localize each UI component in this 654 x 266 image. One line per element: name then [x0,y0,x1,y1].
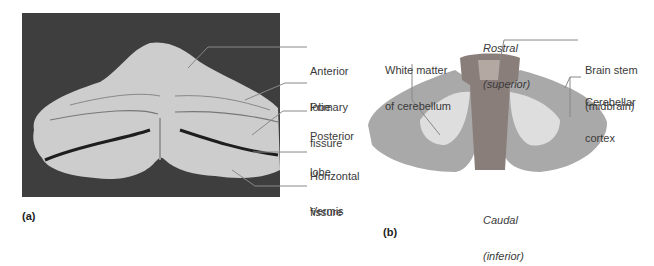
label-vermis: Vermis [310,181,344,241]
panel-b-label: (b) [383,226,397,238]
panel-b: Rostral (superior) White matter of cereb… [360,0,654,246]
panel-a: Anterior lobe Primary fissure Posterior … [0,0,340,246]
label-white-matter: White matter of cerebellum [385,40,451,136]
label-cerebellar-cortex: Cerebellar cortex [585,72,636,168]
label-caudal: Caudal (inferior) [483,190,524,266]
panel-a-label: (a) [22,210,35,222]
label-rostral: Rostral (superior) [483,18,530,114]
cerebellum-dorsal-photo [0,0,340,246]
